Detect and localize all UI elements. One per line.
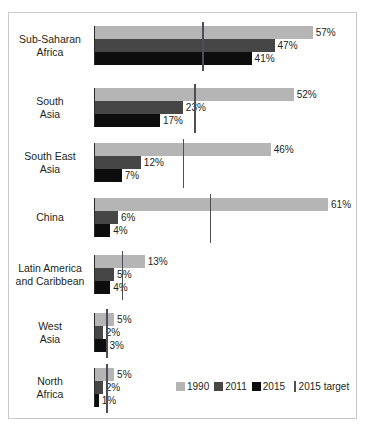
category-label-line: China xyxy=(10,211,90,224)
category-label-line: North xyxy=(10,375,90,388)
category-label: SouthAsia xyxy=(10,95,90,121)
bar-2015 xyxy=(95,52,252,65)
category-label-line: Asia xyxy=(10,108,90,121)
bar-group: Sub-SaharanAfrica57%47%41% xyxy=(0,26,367,65)
legend-item-2015: 2015 xyxy=(252,381,285,392)
category-label: China xyxy=(10,211,90,224)
legend-swatch-icon xyxy=(214,382,223,391)
target-marker-line xyxy=(106,364,108,413)
legend-item-2011: 2011 xyxy=(214,381,247,392)
target-marker-line xyxy=(183,139,185,188)
category-label: Latin Americaand Caribbean xyxy=(10,262,90,288)
bar-group: South EastAsia46%12%7% xyxy=(0,143,367,182)
bar-group: WestAsia5%2%3% xyxy=(0,313,367,352)
category-label-line: South xyxy=(10,95,90,108)
bar-2015 xyxy=(95,114,160,127)
category-label-line: and Caribbean xyxy=(10,275,90,288)
legend-swatch-icon xyxy=(176,382,185,391)
bar-value-label: 47% xyxy=(278,39,298,52)
bar-2011 xyxy=(95,101,183,114)
bar-value-label: 12% xyxy=(144,156,164,169)
category-label-line: Asia xyxy=(10,333,90,346)
category-label-line: Asia xyxy=(10,163,90,176)
chart-figure: Sub-SaharanAfrica57%47%41%SouthAsia52%23… xyxy=(0,0,367,432)
bar-value-label: 4% xyxy=(113,281,127,294)
category-label-line: Sub-Saharan xyxy=(10,33,90,46)
target-marker-line xyxy=(202,22,204,71)
bar-2015 xyxy=(95,394,99,407)
bar-group: China61%6%4% xyxy=(0,198,367,237)
bar-2011 xyxy=(95,156,141,169)
target-marker-line xyxy=(210,194,212,243)
bar-value-label: 13% xyxy=(148,255,168,268)
bar-group: SouthAsia52%23%17% xyxy=(0,88,367,127)
bar-value-label: 1% xyxy=(102,394,116,407)
bar-value-label: 5% xyxy=(117,313,131,326)
bar-value-label: 7% xyxy=(125,169,139,182)
category-label: South EastAsia xyxy=(10,150,90,176)
category-label: Sub-SaharanAfrica xyxy=(10,33,90,59)
target-marker-line xyxy=(122,251,124,300)
bar-1990 xyxy=(95,26,313,39)
bar-1990 xyxy=(95,313,114,326)
category-label: WestAsia xyxy=(10,320,90,346)
bar-value-label: 5% xyxy=(117,368,131,381)
target-marker-line xyxy=(106,309,108,358)
category-label-line: Africa xyxy=(10,46,90,59)
legend-target-label: 2015 target xyxy=(299,381,350,392)
bar-value-label: 6% xyxy=(121,211,135,224)
category-label-line: Africa xyxy=(10,388,90,401)
category-label: NorthAfrica xyxy=(10,375,90,401)
plot-area: Sub-SaharanAfrica57%47%41%SouthAsia52%23… xyxy=(0,0,367,432)
legend-item-label: 2015 xyxy=(263,381,285,392)
bar-2011 xyxy=(95,39,275,52)
chart-legend: 1990201120152015 target xyxy=(176,379,354,393)
bar-value-label: 5% xyxy=(117,268,131,281)
bar-2011 xyxy=(95,381,103,394)
legend-item-label: 2011 xyxy=(225,381,247,392)
bar-value-label: 52% xyxy=(297,88,317,101)
bar-2015 xyxy=(95,169,122,182)
bar-value-label: 4% xyxy=(113,224,127,237)
bar-group: Latin Americaand Caribbean13%5%4% xyxy=(0,255,367,294)
target-rule-icon xyxy=(294,381,296,392)
bar-1990 xyxy=(95,255,145,268)
bar-value-label: 17% xyxy=(163,114,183,127)
target-marker-line xyxy=(194,84,196,133)
bar-2015 xyxy=(95,281,110,294)
bar-2015 xyxy=(95,339,106,352)
bar-2015 xyxy=(95,224,110,237)
bar-value-label: 57% xyxy=(316,26,336,39)
bar-2011 xyxy=(95,211,118,224)
category-label-line: South East xyxy=(10,150,90,163)
bar-value-label: 3% xyxy=(109,339,123,352)
bar-1990 xyxy=(95,198,328,211)
legend-swatch-icon xyxy=(252,382,261,391)
bar-1990 xyxy=(95,368,114,381)
bar-2011 xyxy=(95,326,103,339)
legend-item-label: 1990 xyxy=(187,381,209,392)
legend-item-1990: 1990 xyxy=(176,381,209,392)
bar-value-label: 46% xyxy=(274,143,294,156)
legend-item-target: 2015 target xyxy=(290,381,349,392)
category-label-line: West xyxy=(10,320,90,333)
category-label-line: Latin America xyxy=(10,262,90,275)
bar-2011 xyxy=(95,268,114,281)
bar-value-label: 41% xyxy=(255,52,275,65)
bar-value-label: 61% xyxy=(331,198,351,211)
